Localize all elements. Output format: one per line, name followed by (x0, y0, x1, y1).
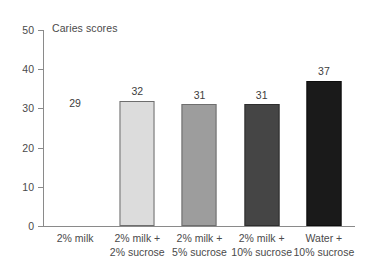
category-label-line-2: 10% sucrose (231, 245, 293, 259)
bar-value-label: 31 (194, 90, 206, 101)
category-label-line-1: 2% milk + (114, 232, 160, 244)
category-label-line-2: 2% sucrose (106, 245, 168, 259)
x-axis-category-label: Water +10% sucrose (293, 231, 355, 259)
bar-value-label: 37 (318, 66, 330, 77)
category-label-line-2: 5% sucrose (168, 245, 230, 259)
caries-scores-bar-chart: Caries scores 01020304050 2932313137 2% … (0, 0, 367, 272)
bar[interactable] (306, 81, 341, 226)
bar[interactable] (120, 101, 155, 226)
x-axis-category-label: 2% milk +2% sucrose (106, 231, 168, 259)
category-label-line-1: 2% milk + (239, 232, 285, 244)
x-axis-category-label: 2% milk +10% sucrose (231, 231, 293, 259)
bar-value-label: 31 (256, 90, 268, 101)
bar-group: 31 (168, 30, 230, 226)
bar-group: 37 (293, 30, 355, 226)
bar-group: 31 (231, 30, 293, 226)
bar-group: 29 (44, 30, 106, 226)
bar-value-label: 32 (131, 86, 143, 97)
x-axis-category-labels: 2% milk2% milk +2% sucrose2% milk +5% su… (44, 231, 355, 271)
x-axis-category-label: 2% milk +5% sucrose (168, 231, 230, 259)
y-axis-tick-label: 50 (0, 25, 34, 36)
x-axis-category-label: 2% milk (44, 231, 106, 245)
category-label-line-1: 2% milk (57, 232, 94, 244)
y-axis-tick-label: 10 (0, 182, 34, 193)
y-axis-tick-label: 20 (0, 142, 34, 153)
bar-group: 32 (106, 30, 168, 226)
x-axis-line (43, 226, 355, 227)
bar-value-label: 29 (69, 98, 81, 109)
y-axis-tick-label: 30 (0, 103, 34, 114)
bar[interactable] (182, 104, 217, 226)
plot-area: 2932313137 (44, 30, 355, 226)
category-label-line-1: 2% milk + (177, 232, 223, 244)
y-axis-tick-label: 0 (0, 221, 34, 232)
category-label-line-1: Water + (306, 232, 343, 244)
y-axis-tick (38, 226, 44, 227)
category-label-line-2: 10% sucrose (293, 245, 355, 259)
bar[interactable] (244, 104, 279, 226)
y-axis-tick-label: 40 (0, 64, 34, 75)
